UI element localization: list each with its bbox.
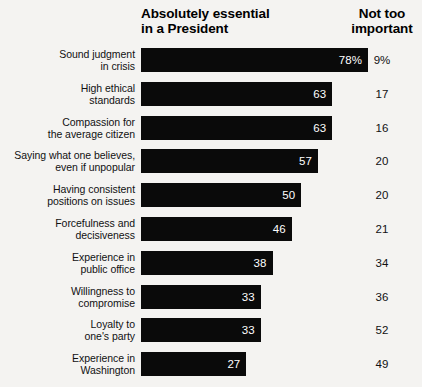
chart-row: Experience in public office3834 bbox=[0, 251, 422, 275]
bar-value-label: 46 bbox=[273, 223, 286, 235]
bar: 63 bbox=[141, 82, 332, 106]
not-too-important-value: 9% bbox=[344, 54, 420, 66]
bar-chart: Absolutely essential in a President Not … bbox=[0, 0, 422, 387]
chart-row: Having consistent positions on issues502… bbox=[0, 183, 422, 207]
chart-row: High ethical standards6317 bbox=[0, 82, 422, 106]
bar-value-label: 33 bbox=[242, 291, 255, 303]
not-too-important-value: 16 bbox=[344, 122, 420, 134]
bar: 78% bbox=[141, 48, 368, 72]
category-label: Forcefulness and decisiveness bbox=[0, 217, 135, 241]
column-header-absolutely-essential: Absolutely essential in a President bbox=[141, 6, 270, 36]
bar-track: 78% bbox=[141, 48, 368, 72]
category-label: Experience in Washington bbox=[0, 352, 135, 376]
bar-track: 33 bbox=[141, 285, 261, 309]
bar-value-label: 33 bbox=[242, 324, 255, 336]
bar: 50 bbox=[141, 183, 301, 207]
bar-track: 27 bbox=[141, 352, 246, 376]
bar-track: 46 bbox=[141, 217, 292, 241]
column-header-not-too-important: Not too important bbox=[344, 6, 420, 36]
not-too-important-value: 20 bbox=[344, 155, 420, 167]
chart-row: Sound judgment in crisis78%9% bbox=[0, 48, 422, 72]
category-label: Compassion for the average citizen bbox=[0, 116, 135, 140]
category-label: Sound judgment in crisis bbox=[0, 48, 135, 72]
not-too-important-value: 36 bbox=[344, 291, 420, 303]
bar-track: 57 bbox=[141, 149, 318, 173]
chart-row: Experience in Washington2749 bbox=[0, 352, 422, 376]
category-label: Saying what one believes, even if unpopu… bbox=[0, 149, 135, 173]
bar: 38 bbox=[141, 251, 273, 275]
bar: 33 bbox=[141, 318, 261, 342]
not-too-important-value: 52 bbox=[344, 324, 420, 336]
chart-row: Forcefulness and decisiveness4621 bbox=[0, 217, 422, 241]
category-label: Loyalty to one's party bbox=[0, 318, 135, 342]
bar-value-label: 27 bbox=[227, 358, 240, 370]
not-too-important-value: 21 bbox=[344, 223, 420, 235]
category-label: High ethical standards bbox=[0, 82, 135, 106]
category-label: Willingness to compromise bbox=[0, 285, 135, 309]
not-too-important-value: 20 bbox=[344, 189, 420, 201]
category-label: Having consistent positions on issues bbox=[0, 183, 135, 207]
not-too-important-value: 17 bbox=[344, 88, 420, 100]
bar: 27 bbox=[141, 352, 246, 376]
bar-track: 38 bbox=[141, 251, 273, 275]
bar-track: 33 bbox=[141, 318, 261, 342]
category-label: Experience in public office bbox=[0, 251, 135, 275]
not-too-important-value: 34 bbox=[344, 257, 420, 269]
bar-track: 50 bbox=[141, 183, 301, 207]
bar: 57 bbox=[141, 149, 318, 173]
bar-track: 63 bbox=[141, 116, 332, 140]
bar-value-label: 63 bbox=[313, 88, 326, 100]
bar: 33 bbox=[141, 285, 261, 309]
chart-row: Willingness to compromise3336 bbox=[0, 285, 422, 309]
bar: 63 bbox=[141, 116, 332, 140]
bar-value-label: 50 bbox=[282, 189, 295, 201]
chart-row: Saying what one believes, even if unpopu… bbox=[0, 149, 422, 173]
chart-row: Loyalty to one's party3352 bbox=[0, 318, 422, 342]
bar-value-label: 38 bbox=[254, 257, 267, 269]
bar-value-label: 63 bbox=[313, 122, 326, 134]
not-too-important-value: 49 bbox=[344, 358, 420, 370]
chart-row: Compassion for the average citizen6316 bbox=[0, 116, 422, 140]
bar-value-label: 57 bbox=[299, 155, 312, 167]
bar-track: 63 bbox=[141, 82, 332, 106]
bar: 46 bbox=[141, 217, 292, 241]
